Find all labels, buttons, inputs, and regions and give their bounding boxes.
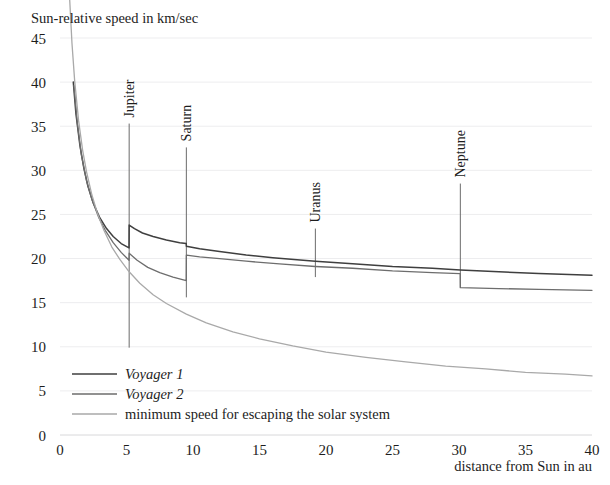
speed-vs-distance-chart: 051015202530354045 0510152025303540 Jupi… [0,0,610,485]
x-tick-label-30: 30 [452,442,467,458]
chart-legend: Voyager 1Voyager 2minimum speed for esca… [72,366,391,422]
chart-container: 051015202530354045 0510152025303540 Jupi… [0,0,610,485]
gridlines [60,38,592,391]
x-axis-tick-labels: 0510152025303540 [56,442,599,458]
x-tick-label-35: 35 [518,442,533,458]
data-series [70,0,592,376]
x-tick-label-40: 40 [585,442,600,458]
planet-label-saturn: Saturn [179,105,194,142]
legend-label-2: Voyager 2 [125,386,183,402]
x-axis-title: distance from Sun in au [454,458,592,474]
planet-label-uranus: Uranus [308,182,323,222]
y-tick-label-5: 5 [39,383,47,399]
y-tick-label-35: 35 [31,119,46,135]
series-line-voyager-2 [74,86,592,291]
x-tick-label-25: 25 [385,442,400,458]
y-tick-label-20: 20 [31,251,46,267]
legend-label-1: Voyager 1 [125,366,183,382]
y-tick-label-45: 45 [31,31,46,47]
series-line-voyager-1 [73,82,592,275]
y-tick-label-30: 30 [31,163,46,179]
x-tick-label-5: 5 [123,442,131,458]
y-tick-label-25: 25 [31,207,46,223]
y-tick-label-40: 40 [31,75,46,91]
y-axis-title: Sun-relative speed in km/sec [31,10,198,26]
x-tick-label-15: 15 [252,442,267,458]
planet-label-neptune: Neptune [453,130,468,177]
y-tick-label-15: 15 [31,295,46,311]
y-axis-tick-labels: 051015202530354045 [31,31,46,444]
y-tick-label-0: 0 [39,428,47,444]
x-tick-label-20: 20 [319,442,334,458]
series-line-minimum-speed-for-escaping-the-solar-system [70,0,592,376]
planet-label-jupiter: Jupiter [122,79,137,117]
x-tick-label-0: 0 [56,442,64,458]
y-tick-label-10: 10 [31,339,46,355]
legend-label-3: minimum speed for escaping the solar sys… [125,406,391,422]
x-tick-label-10: 10 [186,442,201,458]
